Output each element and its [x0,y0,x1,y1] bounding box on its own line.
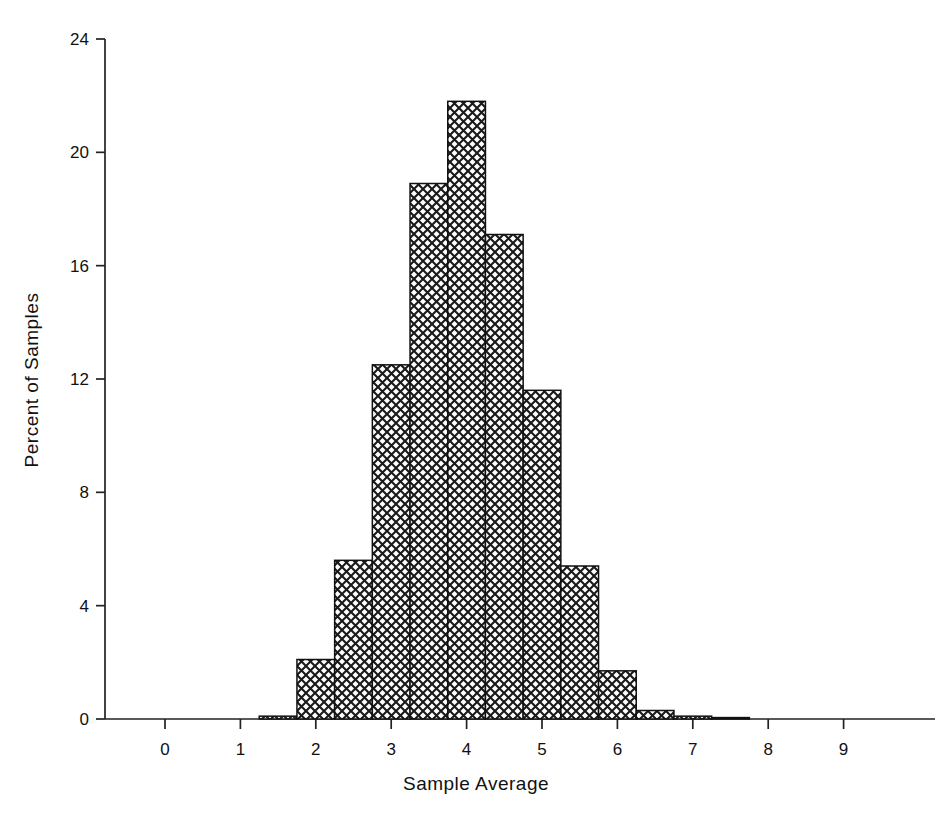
x-tick-label: 7 [688,740,697,759]
histogram-bar [448,101,486,719]
y-axis-ticks: 04812162024 [70,30,105,729]
y-tick-label: 12 [70,370,89,389]
y-axis-label: Percent of Samples [21,293,42,468]
x-tick-label: 1 [236,740,245,759]
histogram-figure: 04812162024 0123456789 Percent of Sample… [0,0,947,816]
histogram-bar [636,711,674,720]
histogram-bar [259,716,297,719]
histogram-bars [259,101,749,719]
y-tick-label: 20 [70,143,89,162]
histogram-bar [372,365,410,719]
histogram-bar [485,235,523,720]
histogram-bar [297,660,335,720]
histogram-bar [674,716,712,719]
histogram-bar [410,184,448,720]
x-axis-label: Sample Average [403,773,549,794]
histogram-bar [599,671,637,719]
x-tick-label: 4 [462,740,471,759]
y-tick-label: 24 [70,30,89,49]
x-tick-label: 3 [386,740,395,759]
histogram-bar [712,718,750,719]
x-tick-label: 9 [839,740,848,759]
x-tick-label: 6 [613,740,622,759]
y-tick-label: 8 [80,483,89,502]
x-tick-label: 0 [160,740,169,759]
histogram-bar [523,390,561,719]
histogram-plot: 04812162024 0123456789 Percent of Sample… [0,0,947,816]
x-tick-label: 8 [763,740,772,759]
x-axis-ticks: 0123456789 [160,719,848,759]
x-tick-label: 2 [311,740,320,759]
y-tick-label: 4 [80,597,89,616]
y-tick-label: 0 [80,710,89,729]
histogram-bar [561,566,599,719]
x-tick-label: 5 [537,740,546,759]
y-tick-label: 16 [70,257,89,276]
histogram-bar [335,560,373,719]
